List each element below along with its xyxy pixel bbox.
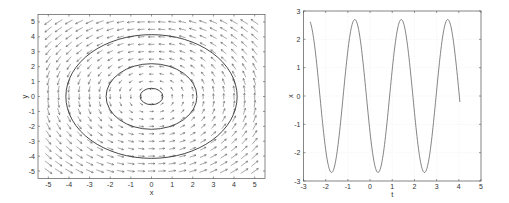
x-tick-label: -1 bbox=[345, 183, 351, 190]
x-tick-label: -1 bbox=[128, 181, 134, 188]
y-tick-label: 3 bbox=[297, 8, 301, 15]
y-tick-label: -2 bbox=[294, 149, 300, 156]
time-series-plot: -3-2-1012345-3-2-10123tx bbox=[286, 8, 484, 200]
y-tick-label: -3 bbox=[294, 178, 300, 185]
y-tick-label: 0 bbox=[31, 93, 35, 100]
y-tick-label: 4 bbox=[31, 33, 35, 40]
y-axis-label: y bbox=[20, 94, 29, 98]
x-tick-label: -3 bbox=[300, 183, 306, 190]
x-tick-label: -2 bbox=[107, 181, 113, 188]
y-axis-label: x bbox=[286, 94, 295, 98]
x-tick-label: -2 bbox=[323, 183, 329, 190]
y-tick-label: -4 bbox=[29, 153, 35, 160]
x-tick-label: 2 bbox=[412, 183, 416, 190]
x-tick-label: -4 bbox=[66, 181, 72, 188]
y-tick-label: 3 bbox=[31, 48, 35, 55]
figure-canvas: -5-4-3-2-1012345-5-4-3-2-1012345xy -3-2-… bbox=[0, 0, 509, 203]
y-tick-label: 2 bbox=[297, 36, 301, 43]
x-axis-label: x bbox=[150, 188, 154, 197]
x-tick-label: 5 bbox=[479, 183, 483, 190]
y-tick-label: -1 bbox=[294, 121, 300, 128]
x-tick-label: 4 bbox=[232, 181, 236, 188]
y-tick-label: 2 bbox=[31, 63, 35, 70]
y-tick-label: -3 bbox=[29, 138, 35, 145]
x-axis-label: t bbox=[391, 190, 394, 199]
x-tick-label: -3 bbox=[86, 181, 92, 188]
phase-portrait-plot: -5-4-3-2-1012345-5-4-3-2-1012345xy bbox=[20, 15, 265, 197]
y-tick-label: 5 bbox=[31, 18, 35, 25]
x-tick-label: 4 bbox=[457, 183, 461, 190]
x-tick-label: 1 bbox=[170, 181, 174, 188]
y-tick-label: -5 bbox=[29, 168, 35, 175]
x-tick-label: 0 bbox=[150, 181, 154, 188]
x-tick-label: 3 bbox=[211, 181, 215, 188]
y-tick-label: -2 bbox=[29, 123, 35, 130]
x-tick-label: 3 bbox=[435, 183, 439, 190]
x-tick-label: 0 bbox=[368, 183, 372, 190]
x-tick-label: -5 bbox=[45, 181, 51, 188]
x-tick-label: 2 bbox=[191, 181, 195, 188]
y-tick-label: 1 bbox=[297, 64, 301, 71]
y-tick-label: 0 bbox=[297, 93, 301, 100]
y-tick-label: -1 bbox=[29, 108, 35, 115]
y-tick-label: 1 bbox=[31, 78, 35, 85]
x-tick-label: 1 bbox=[390, 183, 394, 190]
x-tick-label: 5 bbox=[253, 181, 257, 188]
